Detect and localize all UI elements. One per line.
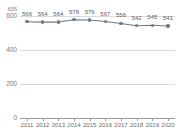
- y-tick-label-600: 600: [6, 13, 17, 20]
- data-point-marker: [72, 18, 75, 21]
- data-label: 542: [132, 15, 142, 21]
- y-tick-label-200: 200: [6, 81, 17, 88]
- data-label: 564: [38, 11, 48, 17]
- data-label: 578: [69, 9, 79, 15]
- x-tickmark-2012: [43, 118, 44, 121]
- data-label: 545: [147, 14, 157, 20]
- y-axis-max-label: 635: [8, 7, 17, 13]
- data-point-marker: [88, 18, 91, 21]
- x-tickmark-2020: [168, 118, 169, 121]
- plot-area: 0200400600635 20112012201320142015201620…: [20, 10, 175, 118]
- top-caption: [128, 0, 180, 6]
- x-tickmark-2013: [58, 118, 59, 121]
- y-tick-label-400: 400: [6, 47, 17, 54]
- x-tick-label-2018: 2018: [130, 122, 143, 128]
- x-tickmark-2016: [105, 118, 106, 121]
- data-point-marker: [166, 24, 169, 27]
- data-point-marker: [25, 20, 28, 23]
- x-tick-label-2013: 2013: [52, 122, 65, 128]
- x-tick-label-2020: 2020: [161, 122, 174, 128]
- data-point-marker: [151, 24, 154, 27]
- data-label: 541: [163, 15, 173, 21]
- data-label: 576: [85, 9, 95, 15]
- x-tickmark-2015: [90, 118, 91, 121]
- x-tick-label-2014: 2014: [67, 122, 80, 128]
- data-label: 556: [116, 12, 126, 18]
- data-label: 564: [53, 11, 63, 17]
- data-point-marker: [119, 22, 122, 25]
- line-chart: 0200400600635 20112012201320142015201620…: [0, 0, 180, 131]
- y-tick-label-0: 0: [13, 115, 17, 122]
- x-tick-label-2016: 2016: [99, 122, 112, 128]
- x-tickmark-2011: [27, 118, 28, 121]
- x-tick-label-2017: 2017: [114, 122, 127, 128]
- x-tick-label-2015: 2015: [83, 122, 96, 128]
- data-label: 566: [22, 11, 32, 17]
- x-tick-label-2011: 2011: [21, 122, 34, 128]
- x-tickmark-2014: [74, 118, 75, 121]
- x-tickmark-2019: [152, 118, 153, 121]
- x-tickmark-2018: [137, 118, 138, 121]
- data-point-marker: [57, 20, 60, 23]
- x-tick-label-2012: 2012: [36, 122, 49, 128]
- x-tick-label-2019: 2019: [146, 122, 159, 128]
- data-label: 567: [100, 11, 110, 17]
- x-tickmark-2017: [121, 118, 122, 121]
- data-point-marker: [41, 20, 44, 23]
